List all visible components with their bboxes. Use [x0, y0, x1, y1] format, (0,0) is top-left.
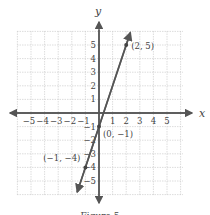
svg-text:−3: −3: [50, 116, 63, 126]
svg-text:4: 4: [151, 116, 156, 126]
svg-text:2: 2: [123, 116, 128, 126]
svg-text:5: 5: [91, 40, 96, 50]
svg-text:−2: −2: [64, 116, 77, 126]
coordinate-plane: −5−4−3−2−11234554321−1−2−3−4−5 (2, 5)(0,…: [0, 0, 210, 215]
svg-text:−5: −5: [83, 176, 96, 186]
svg-text:(−1, −4): (−1, −4): [43, 153, 80, 163]
x-axis-label: x: [199, 107, 206, 120]
svg-text:3: 3: [137, 116, 142, 126]
svg-text:−4: −4: [36, 116, 49, 126]
svg-text:1: 1: [110, 116, 115, 126]
svg-text:(0, −1): (0, −1): [103, 129, 133, 139]
svg-text:1: 1: [91, 94, 96, 104]
svg-text:4: 4: [91, 54, 96, 64]
svg-text:(2, 5): (2, 5): [131, 41, 154, 51]
y-axis-label: y: [94, 5, 102, 18]
svg-text:5: 5: [164, 116, 169, 126]
svg-text:−5: −5: [23, 116, 36, 126]
svg-text:−1: −1: [83, 122, 96, 132]
figure-caption: Figure 5: [81, 211, 120, 215]
svg-text:3: 3: [91, 67, 96, 77]
axes: [10, 22, 192, 203]
svg-text:2: 2: [91, 81, 96, 91]
